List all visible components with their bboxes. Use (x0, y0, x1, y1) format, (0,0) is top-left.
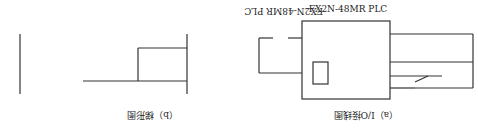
io-caption: （a）I/O接线图 (334, 109, 398, 122)
plc-model-text: FX2N-48MR PLC (244, 6, 323, 16)
ladder-caption: （b）梯形图 (127, 109, 178, 122)
diagram-stage: FX2N-48MR PLC FX2N-48MR PLC （b）梯形图 （a）I/… (0, 0, 478, 134)
